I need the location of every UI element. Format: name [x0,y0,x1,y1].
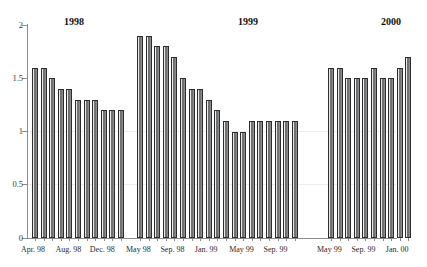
x-tick [209,238,210,241]
bar [362,78,368,238]
bar [249,121,255,238]
x-tick [183,238,184,241]
bar [354,78,360,238]
bar [180,78,186,238]
bar-chart: 2 1.5 1 0.5 0 Apr. 98Aug. 98Dec. 98May 9… [0,0,427,267]
y-tick-label-2: 2 [0,21,23,30]
bar [101,110,107,238]
x-tick [348,238,349,241]
x-axis-line [27,238,397,239]
bar [163,46,169,238]
bar [206,100,212,238]
group-title-1999: 1999 [238,16,258,27]
bar [171,57,177,238]
bar [189,89,195,238]
bar [397,68,403,238]
bar [75,100,81,238]
x-tick [383,238,384,241]
bar [84,100,90,238]
x-tick [408,238,409,241]
x-tick [331,238,332,241]
bar [240,132,246,239]
group-title-1998: 1998 [64,16,84,27]
bar [58,89,64,238]
bar [405,57,411,238]
x-tick [78,238,79,241]
x-axis-label: May 99 [317,245,342,254]
x-tick [87,238,88,241]
bar [118,110,124,238]
bar [257,121,263,238]
x-axis-label: Jan. 00 [386,245,409,254]
x-tick [391,238,392,241]
bar [146,36,152,238]
x-tick [200,238,201,241]
group-title-2000: 2000 [381,16,401,27]
x-tick [217,238,218,241]
bar [197,89,203,238]
x-tick [374,238,375,241]
bar [154,46,160,238]
x-tick [157,238,158,241]
x-tick [140,238,141,241]
x-tick [95,238,96,241]
y-tick-label-1: 1 [0,127,23,136]
x-tick [69,238,70,241]
bar [66,89,72,238]
x-tick [340,238,341,241]
bar [32,68,38,238]
x-axis-label: Dec. 98 [90,245,115,254]
bar [109,110,115,238]
x-tick [269,238,270,241]
bar [137,36,143,238]
bar [380,78,386,238]
x-tick [52,238,53,241]
x-axis-label: Sep. 99 [351,245,375,254]
bar [388,78,394,238]
bar [345,78,351,238]
x-tick [252,238,253,241]
x-axis-label: Sep. 98 [160,245,184,254]
x-axis-label: May 99 [229,245,254,254]
x-tick [286,238,287,241]
x-tick [121,238,122,241]
bar [49,78,55,238]
x-tick [295,238,296,241]
x-axis-label: May 98 [126,245,151,254]
x-tick [357,238,358,241]
bar [328,68,334,238]
x-tick [174,238,175,241]
bar [41,68,47,238]
x-tick [166,238,167,241]
x-tick [235,238,236,241]
x-tick [149,238,150,241]
bar [292,121,298,238]
y-tick-label-1_5: 1.5 [0,74,23,83]
bar [266,121,272,238]
bar [223,121,229,238]
bar [371,68,377,238]
x-tick [260,238,261,241]
x-tick [278,238,279,241]
bar [283,121,289,238]
x-tick [35,238,36,241]
x-axis-label: Sep. 99 [264,245,288,254]
x-tick [243,238,244,241]
y-tick-label-0: 0 [0,234,23,243]
bar [275,121,281,238]
x-tick [61,238,62,241]
x-tick [44,238,45,241]
x-tick [104,238,105,241]
y-tick-label-0_5: 0.5 [0,180,23,189]
x-tick [226,238,227,241]
x-tick [400,238,401,241]
plot-area: 2 1.5 1 0.5 0 Apr. 98Aug. 98Dec. 98May 9… [0,0,427,267]
x-axis-label: Aug. 98 [55,245,81,254]
x-tick [365,238,366,241]
x-tick [112,238,113,241]
bar [92,100,98,238]
bar [337,68,343,238]
x-axis-label: Jan. 99 [195,245,218,254]
x-axis-label: Apr. 98 [21,245,45,254]
bar [214,110,220,238]
